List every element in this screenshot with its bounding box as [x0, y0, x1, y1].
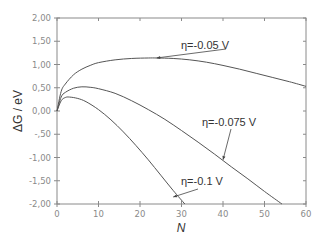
x-axis-title: N	[177, 221, 186, 235]
annotation-label: η=-0.075 V	[202, 116, 257, 128]
x-tick-label: 0	[54, 209, 59, 219]
y-axis-title: ΔG / eV	[11, 90, 25, 132]
y-axis: 2,001,501,000,500,00-,50-1,00-1,50-2,00	[29, 13, 306, 209]
y-tick-label: 2,00	[32, 13, 51, 23]
x-tick-label: 20	[135, 209, 146, 219]
chart-canvas: 2,001,501,000,500,00-,50-1,00-1,50-2,00 …	[0, 0, 325, 248]
series-line-0	[57, 58, 306, 111]
y-tick-label: 1,00	[32, 60, 51, 70]
y-tick-label: -2,00	[29, 199, 51, 209]
x-tick-label: 30	[176, 209, 187, 219]
y-tick-label: -,50	[34, 129, 51, 139]
y-tick-label: -1,00	[29, 153, 51, 163]
y-tick-label: 0,00	[32, 106, 51, 116]
series-line-2	[57, 97, 185, 204]
x-tick-label: 50	[259, 209, 270, 219]
x-tick-label: 40	[218, 209, 229, 219]
curve-annotations: η=-0.05 Vη=-0.075 Vη=-0.1 V	[157, 39, 257, 197]
x-tick-label: 60	[301, 209, 312, 219]
y-tick-label: 0,50	[32, 83, 51, 93]
y-tick-label: -1,50	[29, 176, 51, 186]
x-tick-label: 10	[93, 209, 104, 219]
y-tick-label: 1,50	[32, 36, 51, 46]
annotation-label: η=-0.1 V	[181, 175, 224, 187]
